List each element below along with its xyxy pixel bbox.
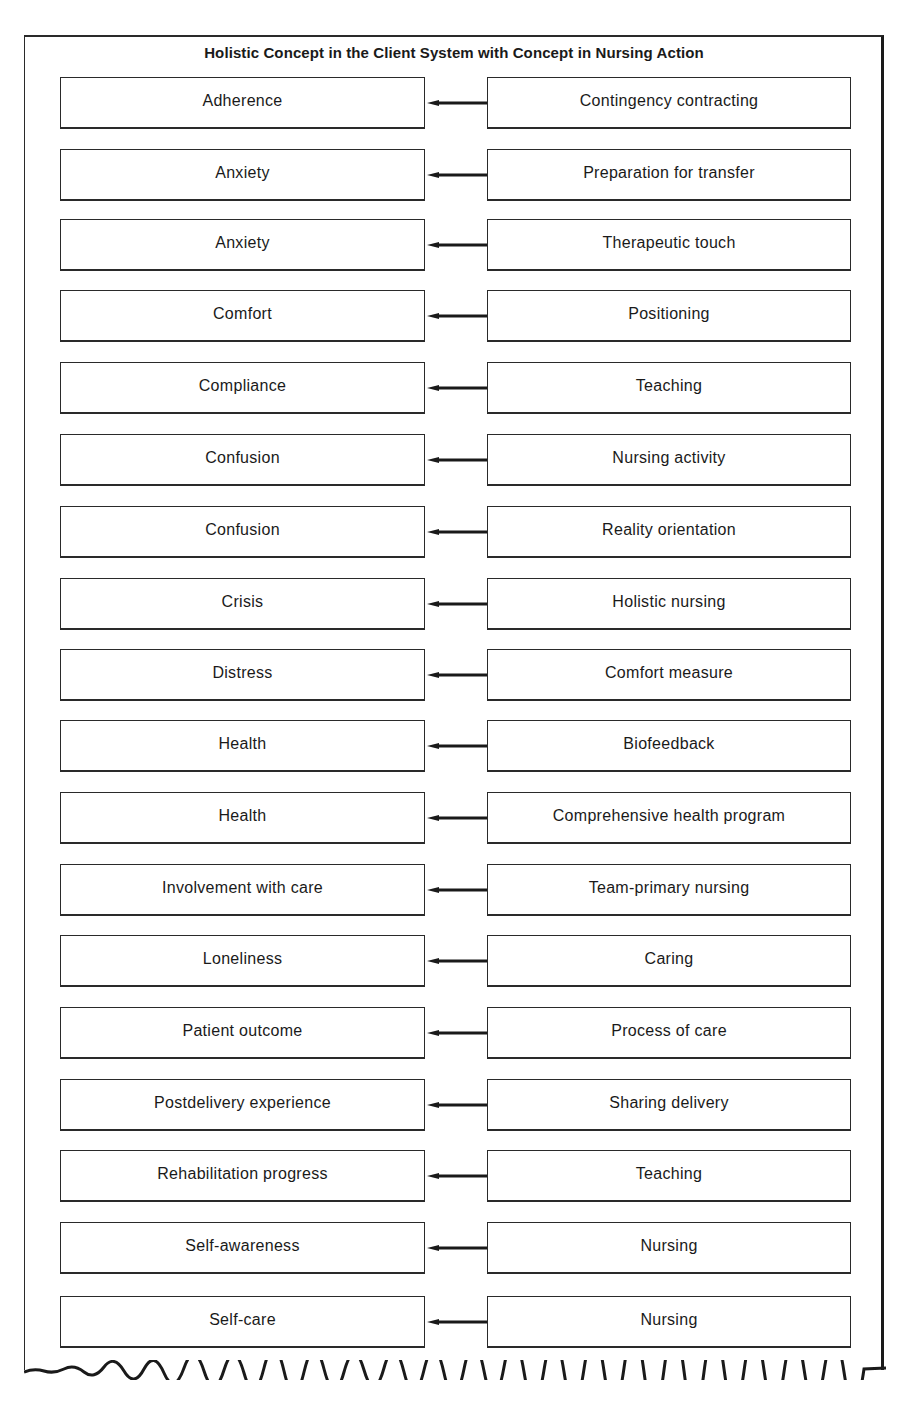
nursing-action-box: Therapeutic touch xyxy=(487,219,851,271)
nursing-action-label: Teaching xyxy=(636,377,702,395)
client-concept-label: Anxiety xyxy=(215,164,270,182)
client-concept-label: Loneliness xyxy=(203,950,283,968)
nursing-action-box: Nursing xyxy=(487,1296,851,1348)
arrow-left-icon xyxy=(427,1030,487,1036)
nursing-action-label: Process of care xyxy=(611,1022,727,1040)
concept-pair-row: Rehabilitation progressTeaching xyxy=(0,1150,900,1202)
nursing-action-box: Process of care xyxy=(487,1007,851,1059)
concept-pair-row: HealthBiofeedback xyxy=(0,720,900,772)
arrow-left-icon xyxy=(427,958,487,964)
client-concept-box: Rehabilitation progress xyxy=(60,1150,425,1202)
client-concept-label: Postdelivery experience xyxy=(154,1094,331,1112)
client-concept-box: Postdelivery experience xyxy=(60,1079,425,1131)
nursing-action-label: Teaching xyxy=(636,1165,702,1183)
arrow-left-icon xyxy=(427,172,487,178)
client-concept-label: Comfort xyxy=(213,305,272,323)
concept-pair-row: Patient outcomeProcess of care xyxy=(0,1007,900,1059)
client-concept-label: Confusion xyxy=(205,449,280,467)
arrow-left-icon xyxy=(427,385,487,391)
client-concept-box: Involvement with care xyxy=(60,864,425,916)
client-concept-box: Anxiety xyxy=(60,149,425,201)
nursing-action-label: Preparation for transfer xyxy=(583,164,755,182)
concept-pair-row: AnxietyTherapeutic touch xyxy=(0,219,900,271)
nursing-action-box: Teaching xyxy=(487,362,851,414)
concept-pair-row: Self-awarenessNursing xyxy=(0,1222,900,1274)
nursing-action-label: Reality orientation xyxy=(602,521,736,539)
arrow-left-icon xyxy=(427,743,487,749)
nursing-action-label: Nursing xyxy=(640,1311,697,1329)
client-concept-label: Self-awareness xyxy=(185,1237,299,1255)
nursing-action-label: Biofeedback xyxy=(623,735,714,753)
concept-pair-row: ComplianceTeaching xyxy=(0,362,900,414)
nursing-action-label: Comprehensive health program xyxy=(553,807,786,825)
client-concept-label: Adherence xyxy=(202,92,282,110)
client-concept-box: Health xyxy=(60,792,425,844)
client-concept-label: Anxiety xyxy=(215,234,270,252)
client-concept-label: Rehabilitation progress xyxy=(157,1165,328,1183)
nursing-action-box: Nursing xyxy=(487,1222,851,1274)
client-concept-box: Health xyxy=(60,720,425,772)
diagram-title: Holistic Concept in the Client System wi… xyxy=(24,44,884,61)
arrow-left-icon xyxy=(427,529,487,535)
nursing-action-label: Contingency contracting xyxy=(580,92,759,110)
nursing-action-box: Team-primary nursing xyxy=(487,864,851,916)
concept-pair-row: AnxietyPreparation for transfer xyxy=(0,149,900,201)
concept-pair-row: ComfortPositioning xyxy=(0,290,900,342)
nursing-action-label: Caring xyxy=(645,950,694,968)
nursing-action-label: Positioning xyxy=(628,305,710,323)
nursing-action-box: Comprehensive health program xyxy=(487,792,851,844)
arrow-left-icon xyxy=(427,601,487,607)
arrow-left-icon xyxy=(427,313,487,319)
client-concept-label: Compliance xyxy=(199,377,286,395)
arrow-left-icon xyxy=(427,1319,487,1325)
nursing-action-box: Reality orientation xyxy=(487,506,851,558)
client-concept-label: Crisis xyxy=(222,593,264,611)
nursing-action-box: Teaching xyxy=(487,1150,851,1202)
concept-pair-row: Self-careNursing xyxy=(0,1296,900,1348)
client-concept-box: Loneliness xyxy=(60,935,425,987)
concept-pair-row: ConfusionReality orientation xyxy=(0,506,900,558)
client-concept-label: Patient outcome xyxy=(182,1022,302,1040)
client-concept-box: Compliance xyxy=(60,362,425,414)
nursing-action-box: Preparation for transfer xyxy=(487,149,851,201)
torn-edge-decoration xyxy=(24,1360,886,1380)
nursing-action-label: Sharing delivery xyxy=(609,1094,729,1112)
client-concept-box: Anxiety xyxy=(60,219,425,271)
client-concept-box: Comfort xyxy=(60,290,425,342)
client-concept-label: Involvement with care xyxy=(162,879,323,897)
nursing-action-box: Nursing activity xyxy=(487,434,851,486)
arrow-left-icon xyxy=(427,1173,487,1179)
nursing-action-label: Team-primary nursing xyxy=(589,879,750,897)
concept-pair-row: AdherenceContingency contracting xyxy=(0,77,900,129)
concept-pair-row: CrisisHolistic nursing xyxy=(0,578,900,630)
client-concept-box: Confusion xyxy=(60,506,425,558)
client-concept-box: Adherence xyxy=(60,77,425,129)
nursing-action-box: Caring xyxy=(487,935,851,987)
nursing-action-box: Positioning xyxy=(487,290,851,342)
nursing-action-box: Comfort measure xyxy=(487,649,851,701)
client-concept-label: Distress xyxy=(212,664,272,682)
concept-pair-row: LonelinessCaring xyxy=(0,935,900,987)
client-concept-label: Self-care xyxy=(209,1311,276,1329)
nursing-action-label: Comfort measure xyxy=(605,664,733,682)
nursing-action-box: Contingency contracting xyxy=(487,77,851,129)
arrow-left-icon xyxy=(427,672,487,678)
client-concept-box: Patient outcome xyxy=(60,1007,425,1059)
client-concept-box: Self-care xyxy=(60,1296,425,1348)
client-concept-box: Confusion xyxy=(60,434,425,486)
client-concept-box: Self-awareness xyxy=(60,1222,425,1274)
concept-pair-row: HealthComprehensive health program xyxy=(0,792,900,844)
nursing-action-box: Biofeedback xyxy=(487,720,851,772)
client-concept-label: Health xyxy=(218,807,266,825)
arrow-left-icon xyxy=(427,887,487,893)
concept-pair-row: Involvement with careTeam-primary nursin… xyxy=(0,864,900,916)
arrow-left-icon xyxy=(427,815,487,821)
nursing-action-label: Nursing xyxy=(640,1237,697,1255)
concept-pair-row: DistressComfort measure xyxy=(0,649,900,701)
nursing-action-box: Holistic nursing xyxy=(487,578,851,630)
client-concept-label: Confusion xyxy=(205,521,280,539)
concept-pair-row: ConfusionNursing activity xyxy=(0,434,900,486)
nursing-action-label: Therapeutic touch xyxy=(602,234,735,252)
nursing-action-label: Holistic nursing xyxy=(612,593,725,611)
arrow-left-icon xyxy=(427,457,487,463)
